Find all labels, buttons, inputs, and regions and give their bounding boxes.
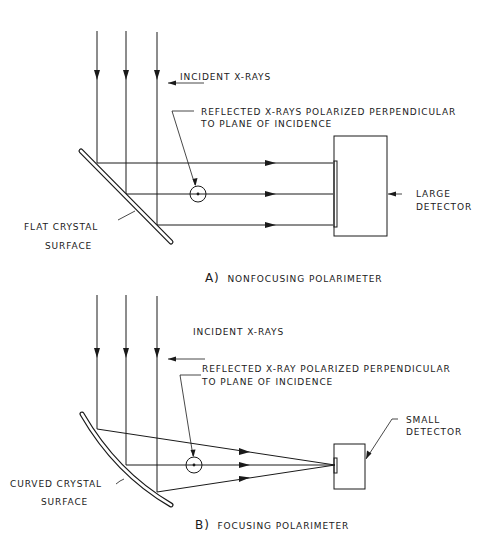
reflected-leader-a [172,111,195,185]
incident-label-b: INCIDENT X-RAYS [193,327,284,337]
caption-b: B) FOCUSING POLARIMETER [195,518,349,532]
detector-label-a-line2: DETECTOR [416,202,472,212]
small-detector [334,444,365,489]
crystal-label-b-line1: CURVED CRYSTAL [10,479,102,489]
crystal-label-a-line1: FLAT CRYSTAL [24,222,98,232]
reflected-label-a-line1: REFLECTED X-RAYS POLARIZED PERPENDICULAR [201,107,456,117]
panel-b-focusing: INCIDENT X-RAYS REFLECTED X-RAY POLARIZE… [10,295,462,532]
detector-label-b-line1: SMALL [406,415,440,425]
crystal-label-b-line2: SURFACE [41,497,88,507]
caption-a-text: NONFOCUSING POLARIMETER [227,274,382,284]
crystal-leader-b [116,479,124,484]
detector-label-a-line1: LARGE [416,189,451,199]
detector-label-b-line2: DETECTOR [406,427,462,437]
caption-b-letter: B) [195,518,210,532]
detector-leader-b [366,419,398,459]
incident-rays-b [94,295,160,492]
reflected-rays-a [97,160,333,228]
reflected-label-b-line2: TO PLANE OF INCIDENCE [201,377,333,387]
panel-a-nonfocusing: INCIDENT X-RAYS REFLECTED X-RAYS POLARIZ… [24,31,472,285]
polarimeter-diagram: INCIDENT X-RAYS REFLECTED X-RAYS POLARIZ… [0,0,491,549]
caption-b-text: FOCUSING POLARIMETER [217,521,349,531]
crystal-label-a-line2: SURFACE [45,241,92,251]
reflected-label-b-line1: REFLECTED X-RAY POLARIZED PERPENDICULAR [202,364,451,374]
caption-a-letter: A) [205,271,220,285]
reflected-label-a-line2: TO PLANE OF INCIDENCE [200,119,332,129]
crystal-leader-a [118,211,135,220]
reflected-rays-b [97,429,335,492]
caption-a: A) NONFOCUSING POLARIMETER [205,271,382,285]
large-detector [334,136,387,236]
incident-label-a: INCIDENT X-RAYS [180,72,271,82]
